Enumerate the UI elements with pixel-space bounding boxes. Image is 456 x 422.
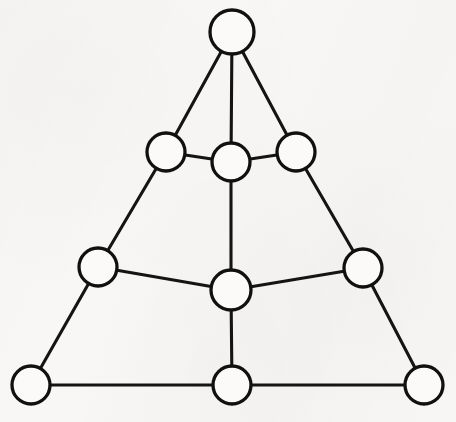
- graph-edge: [250, 271, 346, 287]
- graph-edge: [231, 53, 232, 144]
- graph-edge: [175, 50, 222, 136]
- graph-node-upper-left: [147, 133, 185, 171]
- graph-edge: [305, 167, 354, 252]
- graph-edge: [116, 270, 213, 287]
- figure-caption: [0, 413, 456, 422]
- edge-layer: [40, 50, 416, 385]
- graph-edge: [40, 282, 89, 369]
- graph-node-mid-right: [344, 249, 382, 287]
- graph-edge: [231, 309, 232, 367]
- figure-root: [0, 0, 456, 422]
- graph-node-upper-center: [212, 143, 250, 181]
- graph-edge: [184, 155, 214, 160]
- graph-node-mid-center: [211, 270, 251, 310]
- graph-canvas: [0, 0, 456, 422]
- graph-edge: [107, 167, 157, 251]
- graph-node-base-center: [213, 366, 251, 404]
- graph-node-apex: [210, 10, 254, 54]
- node-layer: [12, 10, 443, 404]
- graph-edge: [249, 155, 279, 160]
- graph-node-upper-right: [277, 133, 315, 171]
- graph-node-base-right: [405, 366, 443, 404]
- graph-node-base-left: [12, 366, 50, 404]
- graph-node-mid-left: [79, 248, 117, 286]
- graph-edge: [371, 284, 416, 369]
- graph-edge: [242, 50, 288, 136]
